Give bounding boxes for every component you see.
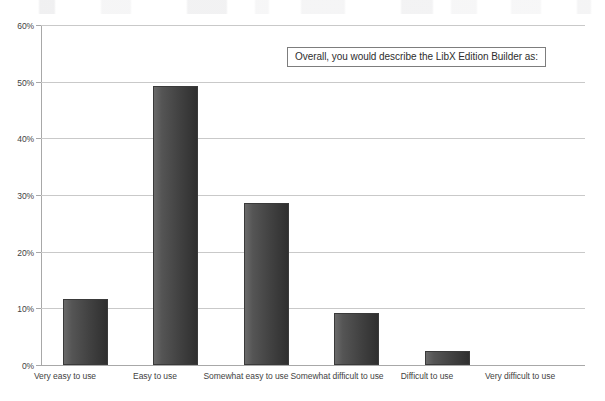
x-tick-label-somewhat-easy-to-use: Somewhat easy to use [199,371,293,382]
y-tick-label: 0% [0,361,34,371]
y-tick-label: 30% [0,191,34,201]
y-tick-label: 20% [0,248,34,258]
y-tick-label: 60% [0,21,34,31]
y-tick-label: 10% [0,304,34,314]
gridline-50 [41,82,585,83]
legend-label: Overall, you would describe the LibX Edi… [295,51,538,62]
gridline-60 [41,25,585,26]
bar-somewhat-easy-to-use[interactable] [244,203,289,365]
plot-area [41,25,585,365]
bar-very-easy-to-use[interactable] [63,299,108,365]
gridline-20 [41,252,585,253]
y-tick-label: 50% [0,78,34,88]
gridline-10 [41,308,585,309]
gridline-0-baseline [41,365,585,366]
x-tick-label-very-difficult-to-use: Very difficult to use [468,371,572,382]
bar-difficult-to-use[interactable] [425,351,470,365]
legend-box: Overall, you would describe the LibX Edi… [287,47,546,67]
gridline-30 [41,195,585,196]
y-tick-label: 40% [0,134,34,144]
bar-chart: 60% 50% 40% 30% 20% 10% 0% Very easy to … [0,0,605,401]
x-tick-label-easy-to-use: Easy to use [110,371,200,382]
x-tick-label-somewhat-difficult-to-use: Somewhat difficult to use [289,371,385,382]
bar-easy-to-use[interactable] [153,86,198,365]
bar-somewhat-difficult-to-use[interactable] [334,313,379,365]
gridline-40 [41,138,585,139]
x-tick-label-very-easy-to-use: Very easy to use [20,371,110,382]
x-tick-label-difficult-to-use: Difficult to use [382,371,472,382]
scan-artifact-band [0,0,605,14]
